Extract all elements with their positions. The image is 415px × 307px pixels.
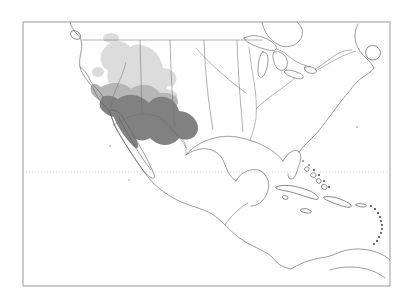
map-canvas bbox=[0, 0, 415, 307]
map-speck bbox=[128, 179, 130, 181]
distribution-map-figure bbox=[0, 0, 415, 307]
range-patch-northwest bbox=[103, 33, 119, 43]
map-speck bbox=[109, 145, 111, 147]
range-patch-sierra bbox=[92, 67, 104, 77]
map-speck bbox=[356, 126, 358, 128]
map-frame bbox=[23, 22, 390, 286]
